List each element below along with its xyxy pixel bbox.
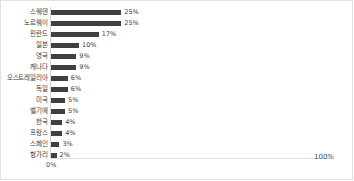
bar-track: 25% <box>51 18 350 29</box>
bar-category-label: 프랑스 <box>1 128 48 139</box>
bar-category-label: 미국 <box>1 95 48 106</box>
bar-value-label: 6% <box>71 84 81 95</box>
bar-track: 10% <box>51 40 350 51</box>
bar-category-label: 한국 <box>1 117 48 128</box>
bar-track: 3% <box>51 139 350 150</box>
bar-category-label: 핀란드 <box>1 29 48 40</box>
x-axis-line <box>50 158 332 159</box>
bar-track: 6% <box>51 84 350 95</box>
bar-fill[interactable] <box>51 43 79 48</box>
bar-fill[interactable] <box>51 109 65 114</box>
bar-track: 5% <box>51 106 350 117</box>
bar-track: 5% <box>51 95 350 106</box>
chart-container: 스웨덴25%노르웨이25%핀란드17%일본10%영국9%캐나다9%오스트레일리아… <box>0 0 353 180</box>
x-axis-tick-end: 100% <box>314 153 334 161</box>
bar-row: 벨기에5% <box>1 106 354 117</box>
bar-chart-plot-area: 스웨덴25%노르웨이25%핀란드17%일본10%영국9%캐나다9%오스트레일리아… <box>1 7 354 157</box>
bar-row: 프랑스4% <box>1 128 354 139</box>
bar-row: 미국5% <box>1 95 354 106</box>
bar-category-label: 스웨덴 <box>1 7 48 18</box>
bar-category-label: 독일 <box>1 84 48 95</box>
bar-row: 노르웨이25% <box>1 18 354 29</box>
bar-value-label: 25% <box>124 18 138 29</box>
bar-row: 영국9% <box>1 51 354 62</box>
bar-fill[interactable] <box>51 98 65 103</box>
bar-track: 4% <box>51 128 350 139</box>
x-axis-tick-start: 0% <box>46 161 56 169</box>
bar-value-label: 9% <box>79 51 89 62</box>
bar-row: 스페인3% <box>1 139 354 150</box>
bar-track: 9% <box>51 51 350 62</box>
bar-fill[interactable] <box>51 65 76 70</box>
bar-value-label: 5% <box>68 95 78 106</box>
bar-value-label: 2% <box>60 150 70 161</box>
bar-value-label: 9% <box>79 62 89 73</box>
bar-row: 오스트레일리아6% <box>1 73 354 84</box>
bar-category-label: 스페인 <box>1 139 48 150</box>
bar-row: 핀란드17% <box>1 29 354 40</box>
y-axis-line <box>50 7 51 158</box>
bar-fill[interactable] <box>51 87 68 92</box>
bar-row: 스웨덴25% <box>1 7 354 18</box>
bar-value-label: 4% <box>65 128 75 139</box>
bar-category-label: 벨기에 <box>1 106 48 117</box>
bar-value-label: 3% <box>62 139 72 150</box>
bar-row: 한국4% <box>1 117 354 128</box>
bar-value-label: 17% <box>102 29 116 40</box>
bar-category-label: 노르웨이 <box>1 18 48 29</box>
bar-track: 17% <box>51 29 350 40</box>
bar-track: 9% <box>51 62 350 73</box>
bar-row: 캐나다9% <box>1 62 354 73</box>
bar-category-label: 헝가리 <box>1 150 48 161</box>
bar-row: 헝가리2% <box>1 150 354 161</box>
bar-value-label: 6% <box>71 73 81 84</box>
bar-fill[interactable] <box>51 21 121 26</box>
bar-category-label: 영국 <box>1 51 48 62</box>
bar-category-label: 오스트레일리아 <box>1 73 48 84</box>
bar-row: 일본10% <box>1 40 354 51</box>
bar-track: 25% <box>51 7 350 18</box>
bar-category-label: 캐나다 <box>1 62 48 73</box>
bar-track: 2% <box>51 150 350 161</box>
bar-track: 4% <box>51 117 350 128</box>
bar-fill[interactable] <box>51 10 121 15</box>
bar-row: 독일6% <box>1 84 354 95</box>
bar-fill[interactable] <box>51 131 62 136</box>
bar-fill[interactable] <box>51 76 68 81</box>
bar-value-label: 4% <box>65 117 75 128</box>
bar-value-label: 25% <box>124 7 138 18</box>
bar-fill[interactable] <box>51 142 59 147</box>
bar-fill[interactable] <box>51 120 62 125</box>
bar-category-label: 일본 <box>1 40 48 51</box>
bar-fill[interactable] <box>51 54 76 59</box>
bar-track: 6% <box>51 73 350 84</box>
bar-value-label: 10% <box>82 40 96 51</box>
bar-fill[interactable] <box>51 32 99 37</box>
bar-value-label: 5% <box>68 106 78 117</box>
